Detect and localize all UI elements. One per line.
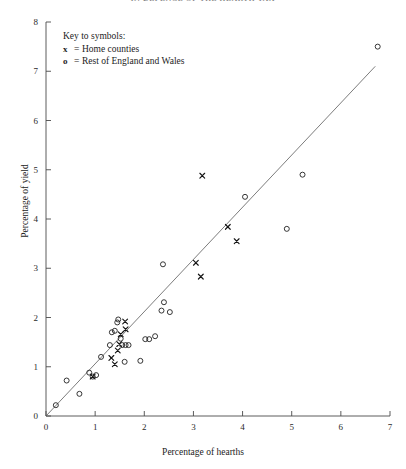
data-point-x: [123, 319, 128, 324]
data-point-o: [107, 343, 112, 348]
scatter-plot-figure: 01234567801234567 Key to symbols: x=Home…: [0, 0, 406, 469]
reference-line: [46, 66, 375, 416]
data-point-o: [122, 359, 127, 364]
legend-equals-1: =: [74, 55, 82, 68]
x-tick-label-5: 5: [289, 422, 294, 432]
legend-symbol-x-icon: x: [63, 43, 74, 56]
data-point-x: [115, 348, 120, 353]
data-point-o: [99, 354, 104, 359]
legend-label-home-counties: Home counties: [82, 44, 139, 54]
data-point-o: [116, 317, 121, 322]
data-point-o: [243, 194, 248, 199]
data-point-x: [234, 239, 239, 244]
legend-entry-rest-of-england-and-wales: o=Rest of England and Wales: [63, 55, 184, 68]
plot-canvas: 01234567801234567: [0, 0, 406, 469]
data-point-x: [112, 362, 117, 367]
data-point-o: [112, 328, 117, 333]
y-tick-label-8: 8: [34, 17, 39, 27]
data-point-o: [161, 300, 166, 305]
data-point-o: [153, 334, 158, 339]
data-point-x: [193, 260, 198, 265]
data-point-o: [160, 262, 165, 267]
data-point-o: [300, 172, 305, 177]
x-axis-label: Percentage of hearths: [0, 447, 406, 457]
legend-entry-home-counties: x=Home counties: [63, 43, 184, 56]
y-tick-label-1: 1: [34, 362, 39, 372]
data-point-o: [115, 320, 120, 325]
x-tick-label-6: 6: [339, 422, 344, 432]
legend: Key to symbols: x=Home counties o=Rest o…: [63, 30, 184, 68]
legend-equals-0: =: [74, 43, 82, 56]
x-tick-label-0: 0: [44, 422, 49, 432]
y-tick-label-5: 5: [34, 165, 39, 175]
data-point-o: [64, 378, 69, 383]
data-point-o: [138, 358, 143, 363]
y-tick-label-7: 7: [34, 66, 39, 76]
data-point-x: [198, 274, 203, 279]
x-tick-label-4: 4: [240, 422, 245, 432]
data-point-o: [167, 310, 172, 315]
data-point-x: [225, 224, 230, 229]
series-home-counties: [90, 173, 239, 379]
y-axis-label: Percentage of yield: [20, 131, 30, 271]
y-tick-label-6: 6: [34, 116, 39, 126]
data-point-o: [77, 391, 82, 396]
y-tick-label-2: 2: [34, 313, 39, 323]
legend-symbol-o-icon: o: [63, 55, 74, 68]
x-tick-label-1: 1: [93, 422, 98, 432]
series-rest-of-england: [53, 44, 380, 408]
data-point-o: [375, 44, 380, 49]
x-tick-label-3: 3: [191, 422, 196, 432]
x-tick-label-2: 2: [142, 422, 147, 432]
y-tick-label-3: 3: [34, 263, 39, 273]
data-point-o: [284, 226, 289, 231]
axis-spine: [46, 22, 390, 416]
y-tick-label-0: 0: [34, 411, 39, 421]
legend-label-rest-of-england: Rest of England and Wales: [82, 56, 184, 66]
data-point-o: [109, 330, 114, 335]
x-tick-label-7: 7: [388, 422, 393, 432]
data-point-x: [117, 342, 122, 347]
data-point-x: [109, 355, 114, 360]
y-tick-label-4: 4: [34, 214, 39, 224]
legend-title: Key to symbols:: [63, 30, 184, 43]
data-point-x: [200, 173, 205, 178]
data-point-o: [159, 308, 164, 313]
